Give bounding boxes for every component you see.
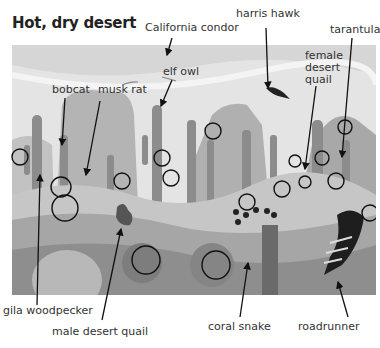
label-roadrunner: roadrunner [298, 321, 359, 333]
label-tarantula: tarantula [330, 24, 380, 36]
label-gila-woodpecker: gila woodpecker [3, 305, 93, 317]
label-elf-owl: elf owl [163, 66, 199, 78]
highlight-circles [12, 120, 376, 279]
label-harris-hawk: harris hawk [236, 8, 300, 20]
label-california-condor: California condor [145, 22, 239, 34]
label-coral-snake: coral snake [208, 321, 271, 333]
label-female-desert-quail: female desert quail [305, 50, 343, 86]
label-bobcat: bobcat [52, 84, 90, 96]
label-male-desert-quail: male desert quail [52, 326, 148, 338]
label-musk-rat: musk rat [98, 84, 147, 96]
